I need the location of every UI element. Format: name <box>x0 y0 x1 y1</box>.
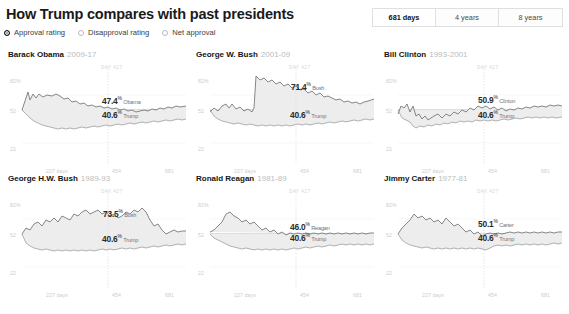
annotation-trump-value: 40.6%Trump <box>102 109 138 120</box>
metric-option-label: Net approval <box>172 28 215 37</box>
metric-option-label: Approval rating <box>14 28 65 37</box>
annotation-trump-value: 40.6%Trump <box>290 232 326 243</box>
panel-title: Jimmy Carter1977-81 <box>384 174 468 183</box>
chart-panel-george-w-bush[interactable]: George W. Bush2001-09 DAY 427 82% 52 22 … <box>190 50 380 180</box>
annotation-president-value: 73.5%Bush <box>103 208 136 219</box>
president-years: 2001-09 <box>261 50 290 59</box>
small-multiples-grid: Barack Obama2009-17 DAY 427 82% 52 22 22… <box>0 48 569 314</box>
president-years: 1993-2001 <box>429 50 467 59</box>
metric-option-net-approval[interactable]: Net approval <box>162 28 215 37</box>
chart-panel-ronald-reagan[interactable]: Ronald Reagan1981-89 DAY 427 82% 52 22 2… <box>190 174 380 304</box>
x-tick-third: 681 <box>541 292 550 298</box>
radio-selected-icon[interactable] <box>4 30 10 36</box>
president-years: 1977-81 <box>438 174 467 183</box>
plot-area <box>384 64 562 164</box>
president-name: Bill Clinton <box>384 50 426 59</box>
x-tick-third: 681 <box>165 292 174 298</box>
x-tick-third: 681 <box>353 292 362 298</box>
president-name: George W. Bush <box>196 50 258 59</box>
president-name: George H.W. Bush <box>8 174 78 183</box>
annotation-president-value: 46.0%Reagan <box>290 221 330 232</box>
time-range-8-years[interactable]: 8 years <box>499 9 562 26</box>
annotation-president-value: 71.4%Bush <box>291 81 324 92</box>
metric-option-label: Disapproval rating <box>88 28 149 37</box>
radio-unselected-icon[interactable] <box>78 30 84 36</box>
x-tick-first: 227 days <box>234 292 256 298</box>
plot-area <box>8 64 186 164</box>
president-name: Ronald Reagan <box>196 174 254 183</box>
x-tick-second: 454 <box>488 292 497 298</box>
president-name: Jimmy Carter <box>384 174 435 183</box>
chart-panel-barack-obama[interactable]: Barack Obama2009-17 DAY 427 82% 52 22 22… <box>2 50 192 180</box>
page-header: How Trump compares with past presidents … <box>0 0 569 44</box>
chart-panel-george-hw-bush[interactable]: George H.W. Bush1989-93 DAY 427 82% 52 2… <box>2 174 192 304</box>
plot-area <box>196 188 374 288</box>
president-years: 2009-17 <box>67 50 96 59</box>
x-tick-first: 227 days <box>46 292 68 298</box>
annotation-president-value: 47.4%Obama <box>102 95 141 106</box>
panel-title: George H.W. Bush1989-93 <box>8 174 110 183</box>
president-name: Barack Obama <box>8 50 64 59</box>
metric-option-disapproval[interactable]: Disapproval rating <box>78 28 149 37</box>
annotation-president-value: 50.9%Clinton <box>478 94 515 105</box>
annotation-president-value: 50.1%Carter <box>478 218 514 229</box>
time-range-toggle: 681 days 4 years 8 years <box>372 8 563 27</box>
panel-title: George W. Bush2001-09 <box>196 50 290 59</box>
x-tick-second: 454 <box>112 292 121 298</box>
plot-area <box>384 188 562 288</box>
chart-panel-jimmy-carter[interactable]: Jimmy Carter1977-81 DAY 427 82% 52 22 22… <box>378 174 568 304</box>
page-title: How Trump compares with past presidents <box>6 6 294 22</box>
president-years: 1981-89 <box>257 174 286 183</box>
president-years: 1989-93 <box>81 174 110 183</box>
x-tick-second: 454 <box>300 292 309 298</box>
time-range-4-years[interactable]: 4 years <box>436 9 499 26</box>
annotation-trump-value: 40.6%Trump <box>478 109 514 120</box>
x-tick-first: 227 days <box>422 292 444 298</box>
annotation-trump-value: 40.6%Trump <box>102 233 138 244</box>
panel-title: Bill Clinton1993-2001 <box>384 50 467 59</box>
annotation-trump-value: 40.6%Trump <box>290 109 326 120</box>
plot-area <box>8 188 186 288</box>
metric-option-approval[interactable]: Approval rating <box>4 28 65 37</box>
annotation-trump-value: 40.6%Trump <box>478 232 514 243</box>
time-range-681-days[interactable]: 681 days <box>373 9 436 26</box>
radio-unselected-icon[interactable] <box>162 30 168 36</box>
metric-selector: Approval rating Disapproval rating Net a… <box>4 28 215 37</box>
chart-panel-bill-clinton[interactable]: Bill Clinton1993-2001 DAY 427 82% 52 22 … <box>378 50 568 180</box>
plot-area <box>196 64 374 164</box>
panel-title: Barack Obama2009-17 <box>8 50 96 59</box>
panel-title: Ronald Reagan1981-89 <box>196 174 287 183</box>
